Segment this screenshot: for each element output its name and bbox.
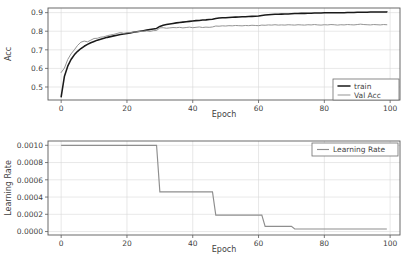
ytick-label: 0.8	[31, 27, 43, 36]
accuracy-legend[interactable]: train Val Acc	[333, 79, 399, 100]
xtick-label: 0	[59, 104, 64, 113]
ytick-label: 0.0004	[17, 193, 43, 202]
learning-rate-legend[interactable]: Learning Rate	[312, 143, 398, 156]
legend-label-val-acc: Val Acc	[354, 91, 381, 100]
xtick-label: 80	[320, 104, 330, 113]
ytick-label: 0.0006	[17, 176, 43, 185]
ytick-label: 0.9	[31, 8, 43, 17]
ytick-label: 0.7	[31, 46, 43, 55]
xtick-label: 40	[188, 104, 198, 113]
xtick-label: 60	[254, 104, 264, 113]
learning-rate-chart-svg: 0.00000.00020.00040.00060.00080.00100204…	[0, 133, 410, 267]
xtick-label: 100	[383, 104, 398, 113]
learning-rate-tickmarks	[45, 145, 390, 238]
legend-label-train: train	[354, 82, 372, 91]
accuracy-chart-svg: 0.50.60.70.80.9020406080100 Epoch Acc tr…	[0, 0, 410, 133]
xtick-label: 20	[122, 239, 132, 248]
ytick-label: 0.6	[31, 64, 43, 73]
ytick-label: 0.0002	[17, 210, 43, 219]
accuracy-chart-panel: 0.50.60.70.80.9020406080100 Epoch Acc tr…	[0, 0, 410, 133]
ytick-label: 0.5	[31, 83, 43, 92]
xtick-label: 100	[383, 239, 398, 248]
xtick-label: 80	[320, 239, 330, 248]
learning-rate-tick-labels: 0.00000.00020.00040.00060.00080.00100204…	[17, 141, 398, 248]
ytick-label: 0.0008	[17, 158, 43, 167]
learning-rate-xaxis-title: Epoch	[212, 245, 237, 254]
accuracy-yaxis-title: Acc	[4, 47, 13, 61]
xtick-label: 40	[188, 239, 198, 248]
xtick-label: 0	[59, 239, 64, 248]
series-line-learning-rate	[61, 145, 387, 229]
accuracy-xaxis-title: Epoch	[212, 110, 237, 119]
xtick-label: 20	[122, 104, 132, 113]
learning-rate-chart-panel: 0.00000.00020.00040.00060.00080.00100204…	[0, 133, 410, 267]
figure-accuracy-and-learning-rate: 0.50.60.70.80.9020406080100 Epoch Acc tr…	[0, 0, 410, 267]
legend-label-learning-rate: Learning Rate	[333, 145, 386, 154]
ytick-label: 0.0010	[17, 141, 43, 150]
learning-rate-yaxis-title: Learning Rate	[4, 160, 13, 216]
ytick-label: 0.0000	[17, 227, 43, 236]
xtick-label: 60	[254, 239, 264, 248]
